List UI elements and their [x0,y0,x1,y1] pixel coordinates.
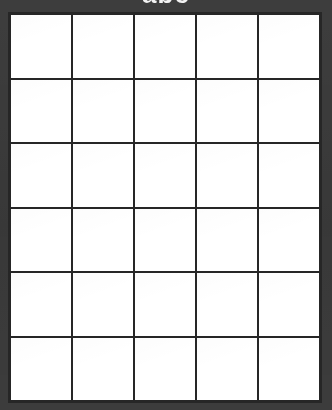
grid-cell[interactable] [197,338,257,401]
screen-root: abc [0,0,332,410]
grid-cell[interactable] [11,209,71,272]
grid-cell[interactable] [11,80,71,143]
grid-cell[interactable] [259,273,319,336]
grid-cell[interactable] [197,15,257,78]
empty-grid-table [8,12,322,403]
grid-cell[interactable] [259,338,319,401]
clipped-header-strip: abc [0,0,332,12]
grid-cell[interactable] [135,144,195,207]
grid-cell[interactable] [11,338,71,401]
grid-cell[interactable] [197,273,257,336]
grid-cell[interactable] [259,144,319,207]
grid-cell[interactable] [259,80,319,143]
grid-cell[interactable] [135,338,195,401]
grid-cell[interactable] [259,209,319,272]
grid-cell[interactable] [73,144,133,207]
grid-cell[interactable] [197,209,257,272]
grid-cell[interactable] [11,144,71,207]
grid-cell[interactable] [135,15,195,78]
grid-cell[interactable] [135,80,195,143]
grid-cell[interactable] [11,273,71,336]
grid-cell[interactable] [197,144,257,207]
grid-cell[interactable] [73,209,133,272]
page-title: abc [0,0,332,7]
grid-cell[interactable] [135,273,195,336]
grid-cell[interactable] [135,209,195,272]
grid-cell[interactable] [11,15,71,78]
grid-cell[interactable] [73,80,133,143]
grid-cell[interactable] [259,15,319,78]
grid-cell[interactable] [197,80,257,143]
grid-cell[interactable] [73,273,133,336]
grid-cell[interactable] [73,338,133,401]
grid-cell[interactable] [73,15,133,78]
